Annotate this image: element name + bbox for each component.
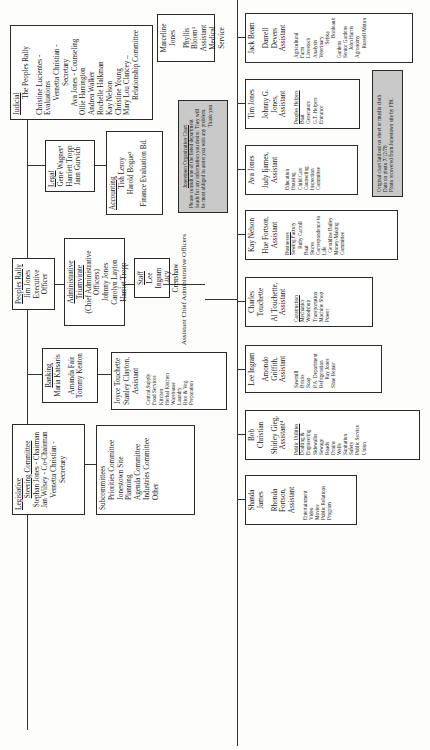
subcommittee-item: Industries Committee — [143, 430, 152, 510]
department-item: Shoe Repair — [330, 350, 336, 388]
banking-member: Amanda Fair — [68, 353, 77, 398]
department-assistant: Rhonda Fortson, — [271, 480, 289, 520]
judicial-member: Relationship Committee — [132, 30, 141, 115]
peoples-rally-heading: Peoples Rally — [15, 263, 24, 305]
judicial-member: Kay Nelson — [106, 30, 115, 115]
accounting-box: Accounting Tish Leroy Harold Bogue² Fina… — [106, 131, 163, 215]
subcommittee-item: Agenda Committee — [134, 430, 143, 510]
department-assistant: Assistant — [279, 18, 288, 58]
department-assistant: Hue Fortson, — [262, 215, 271, 255]
department-item: Entrance — [318, 84, 324, 124]
org-chart-page: Legislative Steering Committee Stephan J… — [0, 0, 430, 750]
department-assistant: Johnny G. Jones, — [262, 84, 280, 124]
assistant-cao-label: Assistant Chief Administrative Officers — [180, 234, 188, 345]
department-assistant: Assistant — [271, 150, 280, 190]
medical-box: Marceline Jones Phyllis Bloom³ Assistant… — [157, 14, 215, 62]
leg-sub-link — [85, 464, 96, 465]
judicial-subheading: The Peoples Rally — [22, 30, 31, 115]
judicial-member: Andrea Walker — [88, 30, 97, 115]
department-assistant: Amondo — [262, 350, 271, 388]
accounting-heading: Accounting — [109, 136, 118, 210]
department-assistant: Assistant — [271, 215, 280, 255]
department-assistant: Judy Ijames, — [262, 150, 271, 190]
medical-line: Phyllis Bloom³ — [183, 19, 201, 57]
department-head: Ava Jones — [248, 150, 257, 190]
legislative-member: Stephan Jones - Chairman — [33, 429, 42, 510]
food-services-box: Joyce Touchette Stanley Clayton, Assista… — [111, 352, 227, 410]
source-note-box: Original chart laid out on sheet or musl… — [372, 70, 403, 197]
notice-signoff: Thank you — [207, 105, 213, 208]
triumvirate-member: Johnny Jones — [102, 243, 111, 321]
legislative-heading: Legislative — [15, 429, 24, 510]
source-note-line: Photo recovered from Jonestown site by F… — [388, 75, 394, 192]
staff-heading: Staff — [137, 263, 146, 293]
spine-end-jack — [237, 37, 238, 38]
judicial-box: Judicial The Peoples Rally Christine Luc… — [10, 25, 153, 120]
judicial-member: Ollie Harrington — [79, 30, 88, 115]
staff-member: Lucy Crenshaw — [163, 263, 181, 293]
peoples-rally-line: Executive Officer — [33, 263, 51, 305]
dept-drop-tim — [237, 103, 245, 104]
accounting-member: Tish Leroy — [118, 136, 127, 210]
department-item: Russell Moton — [361, 18, 367, 58]
department-assistant: Assistant — [279, 350, 288, 388]
department-head: Lee Ingram — [248, 350, 257, 388]
triumvirate-member: Carolyn Layton — [111, 243, 120, 321]
subcommittee-item: Priorities Committee — [108, 430, 117, 510]
judicial-member: Ava Jones - Counseling — [71, 30, 80, 115]
finance-evaluation-board: Finance Evaluation Bd. — [140, 136, 149, 210]
dept-drop-ava — [237, 169, 245, 170]
medical-line: Marceline Jones — [160, 19, 178, 57]
legislative-member: Vernetta Christian - — [50, 429, 59, 510]
department-box-charles-touchette: Charles Touchette Al Touchette, Assistan… — [245, 277, 373, 327]
legislative-member: Jan Wilsey - Co-Chairman — [41, 429, 50, 510]
department-box-lee-ingram: Lee Ingram Amondo Griffith, Assistant Sa… — [245, 345, 382, 393]
top-spine-line — [27, 25, 28, 730]
department-assistant: Assistant — [288, 480, 297, 520]
subcommittees-box: Subcommittees Priorities Committee Jones… — [96, 425, 195, 515]
admin-triumvirate-heading: Administrative Triumvirate — [67, 243, 85, 321]
admin-triumvirate-box: Administrative Triumvirate (Chief Admini… — [64, 238, 125, 326]
banking-box: Banking Maria Katsaris Amanda Fair Tommy… — [42, 348, 98, 403]
legislative-box: Legislative Steering Committee Stephan J… — [12, 424, 85, 515]
department-assistant: Assistant — [279, 282, 288, 322]
medical-line: Medical Service — [209, 19, 227, 57]
legal-box: Legal Gene Wagner¹ Harriett Tropp Jann G… — [45, 140, 95, 192]
department-item: Committee — [315, 150, 321, 190]
dept-drop-kay — [237, 234, 245, 235]
judicial-member: Christine Lucientes - Evaluations — [36, 30, 54, 115]
banking-member: Tommy Keaton — [76, 353, 85, 398]
judicial-member: Rochelle Halkman — [97, 30, 106, 115]
dept-drop-charles — [237, 301, 245, 302]
department-item: Power — [324, 282, 330, 322]
dept-drop-shanda — [237, 499, 245, 500]
department-assistant: Shirley Gieg, — [271, 415, 280, 455]
department-head: Bob Christian — [248, 415, 266, 455]
jonestown-notice-box: Jonestown Organization Chart Please cons… — [178, 100, 228, 213]
peoples-rally-line: Jim Jones — [24, 263, 33, 305]
judicial-member: Christine Young — [115, 30, 124, 115]
legal-member: Gene Wagner¹ — [57, 145, 66, 187]
subcommittees-heading: Subcommittees — [99, 430, 108, 510]
subcommittee-item: Other — [152, 430, 161, 510]
judicial-heading: Judicial — [13, 30, 22, 115]
notice-body-line: be most obliged to assist you with any p… — [200, 105, 206, 208]
legislative-member: Secretary — [59, 429, 68, 510]
food-head: Stanley Clayton, — [123, 357, 132, 405]
legal-member: Harriett Tropp — [66, 145, 75, 187]
food-head: Joyce Touchette — [114, 357, 123, 405]
legal-acct-link — [95, 165, 106, 166]
bottom-spine-line — [237, 0, 238, 746]
judicial-member: Mary Lou Clancey – — [123, 30, 132, 115]
department-head: Charles Touchette — [248, 282, 266, 322]
steering-committee-heading: Steering Committee — [24, 429, 33, 510]
bank-food-link — [98, 374, 111, 375]
department-assistant: Assistant⁴ — [279, 415, 288, 455]
department-item: Committee — [339, 215, 345, 255]
subcommittee-item: Planning — [125, 430, 134, 510]
legal-link — [27, 165, 45, 166]
accounting-member: Harold Bogue² — [127, 136, 136, 210]
department-assistant: Assistant — [279, 84, 288, 124]
judicial-member: Vernetta Christian - Secretary — [53, 30, 71, 115]
department-assistant: Darrell Devers — [262, 18, 280, 58]
